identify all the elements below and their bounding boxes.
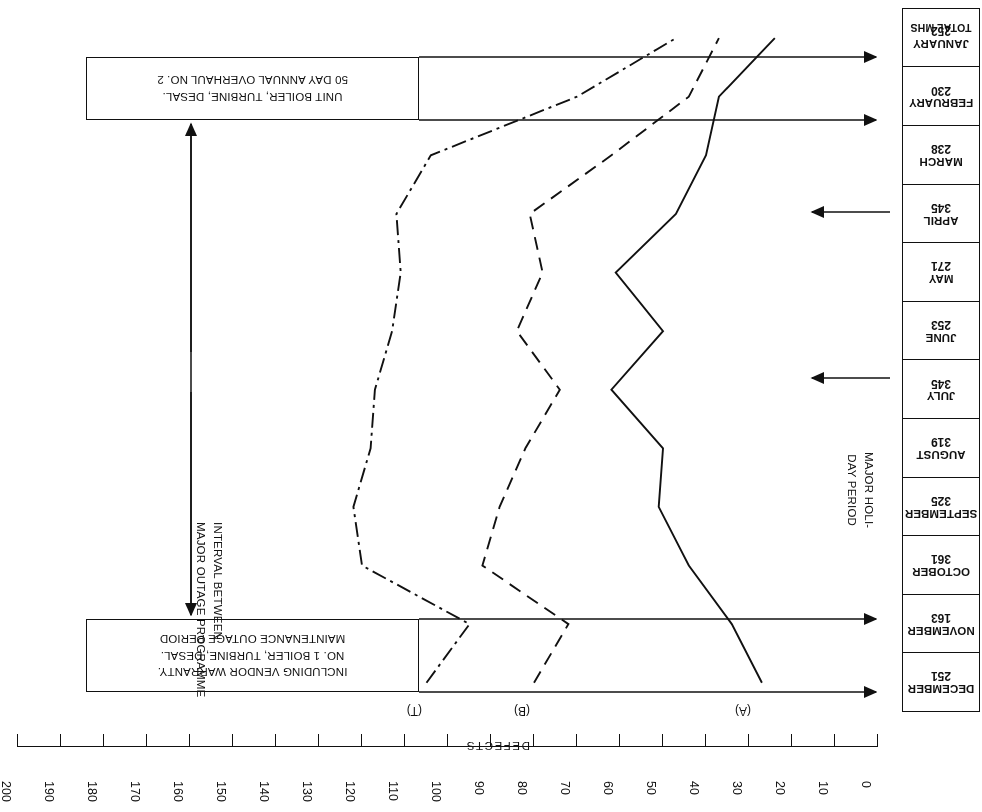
annotation-leaders	[0, 0, 982, 812]
chart-page: DECEMBER251NOVEMBER163OCTOBER361SEPTEMBE…	[0, 0, 982, 812]
chart-plate: DECEMBER251NOVEMBER163OCTOBER361SEPTEMBE…	[0, 0, 982, 812]
